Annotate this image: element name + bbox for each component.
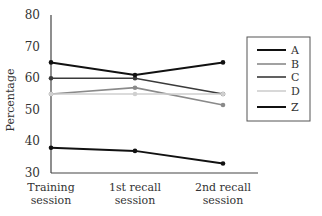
y-axis-ticks: 304050607080 [25,8,40,180]
legend-label: A [290,44,300,57]
legend-label: Z [291,101,299,114]
data-point [221,103,226,108]
y-tick-label: 70 [25,40,40,54]
x-tick-label: Training [27,181,74,194]
data-point [49,60,54,65]
data-point [133,149,138,154]
y-tick-label: 60 [25,71,40,85]
x-tick-label: session [203,194,244,207]
data-point [221,92,226,97]
data-point [133,92,138,97]
y-tick-label: 40 [25,134,40,148]
x-axis-labels: Trainingsession1st recallsession2nd reca… [27,181,251,207]
legend-label: D [291,85,300,98]
y-tick-label: 50 [25,103,40,117]
y-tick-label: 80 [25,8,40,22]
data-point [49,145,54,150]
legend: ABCDZ [247,37,310,121]
y-tick-label: 30 [25,166,40,180]
x-tick-label: session [31,194,72,207]
data-point [133,73,138,78]
x-tick-label: session [115,194,156,207]
data-point [49,76,54,81]
x-tick-label: 1st recall [109,181,162,194]
series-line-b [51,88,223,105]
data-point [133,85,138,90]
y-axis-label: Percentage [4,69,17,132]
data-point [221,161,226,166]
legend-label: B [291,58,299,71]
line-chart: 304050607080 Percentage Trainingsession1… [0,0,322,216]
data-point [221,60,226,65]
x-tick-label: 2nd recall [195,181,252,194]
data-point [49,92,54,97]
series-lines [49,60,226,166]
series-line-z [51,62,223,75]
legend-label: C [291,71,299,84]
